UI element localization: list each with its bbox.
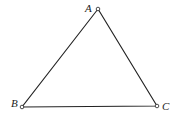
vertex-b-point [20, 105, 24, 109]
vertex-b-label: B [11, 97, 18, 109]
triangle-diagram: A B C [0, 0, 183, 126]
vertex-a-label: A [84, 2, 92, 14]
triangle-abc [22, 9, 157, 107]
vertex-a-point [96, 7, 100, 11]
vertex-c-point [155, 104, 159, 108]
vertex-c-label: C [162, 100, 170, 112]
